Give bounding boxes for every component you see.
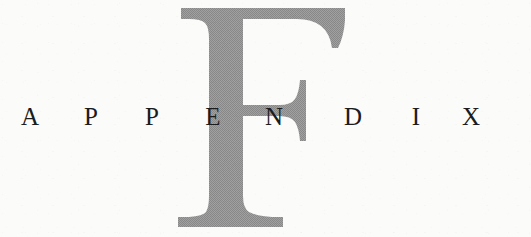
heading-letter: P: [137, 104, 167, 129]
heading-letter: A: [15, 104, 45, 129]
heading-letter: E: [198, 104, 228, 129]
heading-letter: N: [259, 104, 289, 129]
heading-letter: X: [456, 104, 486, 129]
appendix-heading: A P P E N D I X: [0, 0, 531, 237]
heading-letter: D: [338, 104, 368, 129]
heading-letter: I: [401, 104, 431, 129]
heading-letter: P: [76, 104, 106, 129]
appendix-divider-page: A P P E N D I X: [0, 0, 531, 237]
